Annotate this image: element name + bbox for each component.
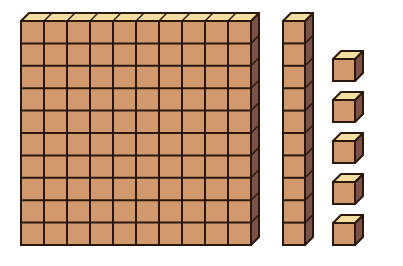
hundred-flat-block	[21, 13, 259, 245]
unit-cubes-group	[333, 51, 363, 245]
ten-rod	[283, 13, 313, 245]
unit-cube-4	[333, 174, 363, 204]
hundred-flat	[21, 13, 259, 245]
unit-cube-2	[333, 92, 363, 122]
ten-rod-block	[283, 13, 313, 245]
unit-cube-3	[333, 133, 363, 163]
unit-cube-5	[333, 215, 363, 245]
blocks-canvas	[0, 0, 403, 266]
unit-cube-1	[333, 51, 363, 81]
